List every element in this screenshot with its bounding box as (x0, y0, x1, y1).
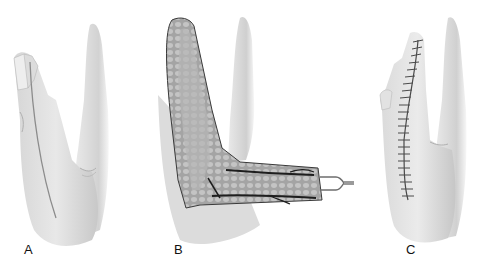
surgical-illustration-figure: A (0, 0, 479, 262)
drain-tube (320, 177, 344, 190)
drain-tip (344, 181, 354, 185)
panel-label-c: C (406, 243, 415, 256)
panel-b: B (150, 0, 365, 262)
panel-a: A (0, 0, 150, 262)
sutured-closure-illustration (360, 0, 479, 262)
hand-incision-illustration (0, 0, 150, 262)
panel-label-b: B (174, 243, 183, 256)
panel-label-a: A (24, 243, 33, 256)
flap-elevation-illustration (150, 0, 365, 262)
panel-c: C (360, 0, 479, 262)
